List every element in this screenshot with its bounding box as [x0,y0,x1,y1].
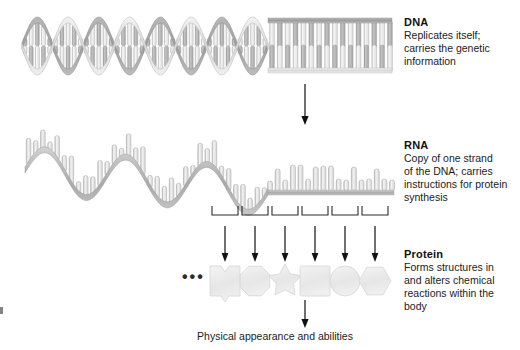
dna-straight-ladder [268,18,392,73]
dna-ribbon-front [22,17,268,75]
rna-label: RNA Copy of one strand of the DNA; carri… [404,139,516,204]
dna-description: Replicates itself; carries the genetic i… [404,29,516,68]
amino-acid-octagon [240,266,270,296]
dna-label: DNA Replicates itself; carries the genet… [404,16,516,68]
dna-title: DNA [404,16,516,29]
rna-illustration [25,130,395,215]
amino-acid-circle [330,266,360,296]
protein-title: Protein [404,248,516,261]
rna-title: RNA [404,139,516,152]
protein-label: Protein Forms structures in and alters c… [404,248,516,313]
codon-brackets [212,206,388,215]
amino-acid-notched-square [210,266,240,302]
rna-description: Copy of one strand of the DNA; carries i… [404,152,516,204]
protein-description: Forms structures in and alters chemical … [404,261,516,313]
edge-artifact [0,307,3,314]
protein-chain [210,264,391,302]
codon-arrows [222,226,379,262]
chain-continues-ellipsis: ••• [182,270,205,284]
figure-canvas: DNA Replicates itself; carries the genet… [0,0,520,350]
amino-acid-hexagon [359,267,391,295]
arrow-dna-to-rna [301,84,308,125]
amino-acid-square [300,266,330,296]
amino-acid-star [269,264,301,295]
figure-caption: Physical appearance and abilities [150,330,400,342]
arrow-protein-to-phenotype [301,300,308,328]
